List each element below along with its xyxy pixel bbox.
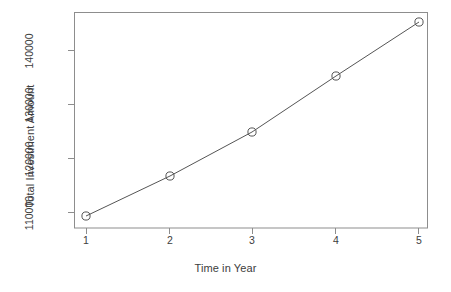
x-tick-label-1: 1	[71, 234, 101, 246]
x-tick-label-3: 3	[237, 234, 267, 246]
line-chart-plot	[0, 0, 451, 292]
x-axis-title: Time in Year	[0, 262, 451, 274]
x-tick-label-5: 5	[404, 234, 434, 246]
y-axis-title: Total Investment Amount	[22, 0, 38, 292]
x-tick-label-4: 4	[321, 234, 351, 246]
x-tick-label-2: 2	[155, 234, 185, 246]
chart-canvas: 110000 120000 130000 140000 1 2 3 4 5 Ti…	[0, 0, 451, 292]
